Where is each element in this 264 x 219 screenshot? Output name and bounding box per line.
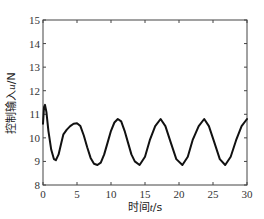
x-tick-label: 5 [74,188,80,200]
y-tick-label: 13 [29,61,41,73]
x-tick-label: 30 [242,188,254,200]
control-input-curve [43,105,247,165]
x-tick-label: 0 [40,188,46,200]
y-tick-label: 11 [29,108,40,120]
x-tick-label: 15 [140,188,152,200]
x-tick-label: 10 [106,188,118,200]
y-tick-label: 12 [29,85,40,97]
x-tick-label: 25 [208,188,220,200]
y-tick-label: 10 [29,132,41,144]
plot-area: 051015202530 89101112131415 [29,14,253,200]
y-tick-label: 8 [35,179,41,191]
y-axis-label: 控制输入u/N [4,72,18,133]
y-tick-label: 14 [29,38,41,50]
x-tick-label: 20 [174,188,186,200]
axes-box [43,20,247,185]
x-axis-label: 时间t/s [128,201,163,214]
x-axis-ticks: 051015202530 [40,20,253,200]
y-tick-label: 9 [35,155,41,167]
y-tick-label: 15 [29,14,41,26]
chart: 051015202530 89101112131415 时间t/s 控制输入u/… [0,0,264,219]
